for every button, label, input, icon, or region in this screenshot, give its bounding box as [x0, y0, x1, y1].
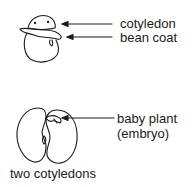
embryo	[46, 116, 61, 123]
left-cotyledon	[17, 108, 46, 162]
embryo-arrow	[62, 116, 114, 121]
top-bean-illustration	[20, 16, 61, 63]
cotyledon-label: cotyledon	[120, 17, 176, 31]
embryo-label: (embryo)	[117, 127, 169, 141]
bean-coat-label: bean coat	[120, 31, 177, 45]
two-cotyledons-caption: two cotyledons	[10, 167, 96, 181]
cotyledon-dome	[28, 16, 55, 30]
cotyledon-arrow	[62, 22, 112, 27]
baby-plant-label: baby plant	[117, 112, 177, 126]
bean-coat-arrow	[67, 35, 112, 40]
